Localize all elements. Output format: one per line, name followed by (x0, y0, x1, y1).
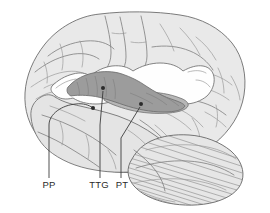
brain-anatomy-figure: PP TTG PT (0, 0, 270, 213)
label-pp: PP (42, 179, 55, 190)
labels-group: PP TTG PT (42, 179, 128, 190)
leader-dot-ttg (101, 86, 105, 90)
label-ttg: TTG (89, 179, 109, 190)
brain-diagram-svg: PP TTG PT (0, 0, 270, 213)
label-pt: PT (116, 179, 129, 190)
leader-dot-pt (139, 102, 143, 106)
leader-dot-pp (91, 106, 95, 110)
